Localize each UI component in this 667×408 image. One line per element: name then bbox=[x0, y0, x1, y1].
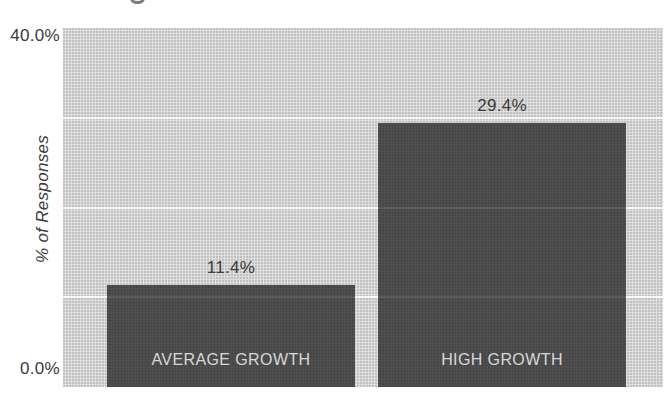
category-label-average-growth: AVERAGE GROWTH bbox=[107, 351, 355, 369]
category-label-high-growth: HIGH GROWTH bbox=[378, 351, 626, 369]
bar-average-growth: AVERAGE GROWTH bbox=[107, 285, 355, 387]
plot-area: AVERAGE GROWTH11.4%HIGH GROWTH29.4% bbox=[63, 28, 663, 387]
value-label-high-growth: 29.4% bbox=[378, 96, 626, 116]
value-label-average-growth: 11.4% bbox=[107, 258, 355, 278]
bar-high-growth: HIGH GROWTH bbox=[378, 123, 626, 387]
gridline-overlay-10pct bbox=[63, 296, 663, 298]
y-tick-label-min: 0.0% bbox=[0, 359, 60, 379]
gridline-overlay-30pct bbox=[63, 117, 663, 119]
cropped-title-text-fragment bbox=[130, 0, 145, 4]
y-tick-label-max: 40.0% bbox=[0, 26, 60, 46]
gridline-overlay-20pct bbox=[63, 207, 663, 209]
y-axis-title: % of Responses bbox=[33, 112, 53, 286]
bar-chart-figure: 40.0% 0.0% % of Responses AVERAGE GROWTH… bbox=[0, 0, 667, 408]
